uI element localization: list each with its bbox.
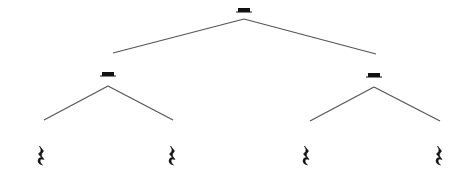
edge-root-to-mid-right <box>244 19 376 54</box>
edge-root-to-mid-left <box>113 19 244 53</box>
edge-mid-left-to-leaf-2 <box>108 86 173 120</box>
edge-mid-right-to-leaf-3 <box>310 87 374 121</box>
tree-diagram <box>0 0 472 172</box>
half-rest-icon <box>100 72 116 76</box>
rest-subdivision-tree <box>0 0 472 172</box>
quarter-rest-icon <box>436 146 442 165</box>
quarter-rest-icon <box>38 146 44 165</box>
quarter-rest-icon <box>169 146 175 165</box>
quarter-rest-icon <box>303 146 309 165</box>
half-rest-icon <box>236 8 252 12</box>
half-rest-icon <box>366 73 382 77</box>
edge-mid-right-to-leaf-4 <box>374 87 440 121</box>
edge-mid-left-to-leaf-1 <box>44 86 108 120</box>
